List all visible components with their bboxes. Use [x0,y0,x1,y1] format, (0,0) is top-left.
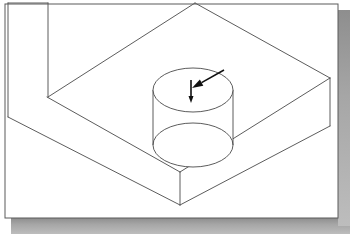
cad-drawing-canvas [0,0,350,234]
cylindrical-boss-group [153,68,233,167]
drawing-viewport [0,0,350,234]
